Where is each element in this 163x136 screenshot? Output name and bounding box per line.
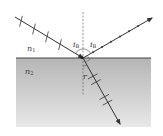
incidence-point [80,56,83,59]
refracted-angle-label: r [83,73,87,81]
incident-angle-label: iB [73,41,79,49]
medium-2-region [16,58,151,127]
brewster-angle-diagram: n1 n2 iB iB r [0,0,163,136]
incident-angle-arc [76,49,84,54]
reflected-angle-arc [83,49,91,54]
medium-2-label: n2 [25,68,33,76]
incident-ray [15,17,83,58]
reflected-angle-label: iB [90,41,96,49]
medium-1-label: n1 [27,45,35,53]
